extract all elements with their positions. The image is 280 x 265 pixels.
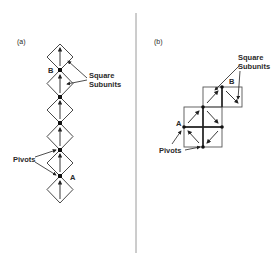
square-subunits-label: Subunits — [89, 80, 121, 89]
callout-lines — [215, 66, 240, 99]
panel-b: (b) — [154, 38, 270, 155]
pivot-dot — [58, 68, 62, 72]
panel-a: (a) B A Square — [13, 38, 121, 203]
pivot-dot — [220, 85, 224, 89]
pivot-dot — [201, 145, 205, 149]
arrow-icons — [188, 91, 238, 143]
pivot-dot — [220, 125, 224, 129]
arrow-up-left-icon — [188, 131, 199, 143]
point-a-label: A — [70, 173, 76, 182]
figure: (a) B A Square — [0, 0, 280, 265]
arrow-up-right-icon — [188, 111, 199, 123]
arrow-up-right-icon — [207, 91, 218, 103]
pivot-dot — [58, 95, 62, 99]
point-b-label: B — [48, 66, 54, 75]
square-subunits-label: Square — [238, 53, 263, 62]
square-subunits-label: Subunits — [238, 62, 270, 71]
pivot-dot — [201, 105, 205, 109]
pivots-label: Pivots — [13, 155, 36, 164]
panel-b-label: (b) — [154, 38, 163, 46]
pivot-dot — [58, 121, 62, 125]
pivots-label: Pivots — [159, 146, 182, 155]
callout-lines — [35, 150, 56, 175]
point-a-label: A — [176, 119, 182, 128]
pivot-dot — [182, 125, 186, 129]
arrow-down-right-icon — [226, 91, 238, 103]
arrow-down-left-icon — [207, 131, 218, 143]
pivot-dot — [58, 174, 62, 178]
panel-a-label: (a) — [17, 38, 26, 46]
square-subunits-label: Square — [89, 71, 114, 80]
point-b-label: B — [229, 77, 235, 86]
pivot-dot — [58, 148, 62, 152]
arrow-down-right-icon — [207, 111, 218, 123]
